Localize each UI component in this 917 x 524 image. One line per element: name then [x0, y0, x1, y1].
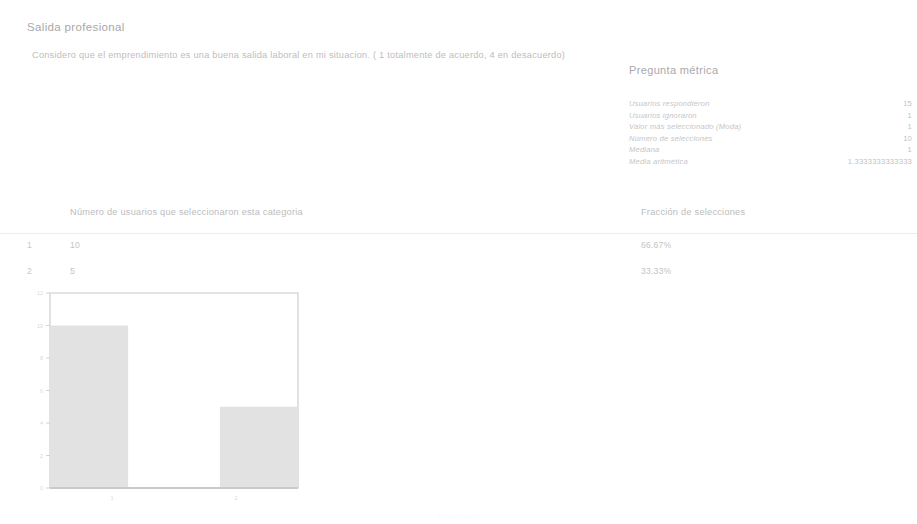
metric-row-mediana: Mediana 1 [629, 144, 912, 156]
table-header-row: Número de usuarios que seleccionaron est… [0, 207, 917, 229]
metric-value: 1.3333333333333 [848, 156, 912, 168]
table-header-count: Número de usuarios que seleccionaron est… [70, 207, 303, 217]
metric-row-usuarios-respondieron: Usuarios respondieron 15 [629, 98, 912, 110]
y-axis-tick-label: 8 [40, 355, 43, 361]
table-cell-count: 5 [70, 266, 75, 276]
table-cell-index: 1 [27, 240, 32, 250]
table-cell-count: 10 [70, 240, 80, 250]
y-axis-tick-label: 12 [37, 290, 43, 296]
metric-value: 10 [903, 133, 912, 145]
metric-label: Número de selecciones [629, 133, 713, 145]
chart-bar [220, 407, 298, 488]
x-axis-tick-label: 1 [110, 495, 113, 501]
page-title: Salida profesional [27, 21, 125, 33]
table-header-fraction: Fracción de selecciones [641, 207, 745, 217]
metric-label: Usuarios respondieron [629, 98, 710, 110]
metrics-panel-title: Pregunta métrica [629, 64, 912, 76]
distribution-table: Número de usuarios que seleccionaron est… [0, 207, 917, 229]
table-cell-index: 2 [27, 266, 32, 276]
metrics-panel: Pregunta métrica Usuarios respondieron 1… [629, 64, 912, 168]
y-axis-tick-label: 2 [40, 453, 43, 459]
metric-label: Media aritmética [629, 156, 688, 168]
y-axis-tick-label: 10 [37, 323, 43, 329]
y-axis-tick-label: 6 [40, 388, 43, 394]
metric-label: Mediana [629, 144, 660, 156]
question-prompt: Considero que el emprendimiento es una b… [32, 50, 565, 60]
table-cell-fraction: 66.67% [641, 240, 671, 250]
metric-value: 15 [903, 98, 912, 110]
chart-bar [50, 326, 128, 489]
table-body: 1 10 66.67% 2 5 33.33% [0, 240, 917, 292]
footer-note: Resultados [0, 512, 917, 521]
table-header-divider [0, 233, 917, 234]
metric-value: 1 [908, 110, 912, 122]
metric-row-moda: Valor más seleccionado (Moda) 1 [629, 121, 912, 133]
metric-row-usuarios-ignoraron: Usuarios ignoraron 1 [629, 110, 912, 122]
metric-row-media-aritmetica: Media aritmética 1.3333333333333 [629, 156, 912, 168]
y-axis-tick-label: 4 [40, 420, 43, 426]
x-axis-tick-label: 2 [234, 495, 237, 501]
metric-value: 1 [908, 144, 912, 156]
metric-value: 1 [908, 121, 912, 133]
y-axis-tick-label: 0 [40, 485, 43, 491]
metric-row-numero-selecciones: Número de selecciones 10 [629, 133, 912, 145]
table-cell-fraction: 33.33% [641, 266, 671, 276]
bar-chart-svg: 02468101212 [22, 288, 322, 518]
table-row: 1 10 66.67% [0, 240, 917, 266]
bar-chart: 02468101212 [22, 288, 322, 518]
metric-label: Usuarios ignoraron [629, 110, 697, 122]
metric-label: Valor más seleccionado (Moda) [629, 121, 741, 133]
